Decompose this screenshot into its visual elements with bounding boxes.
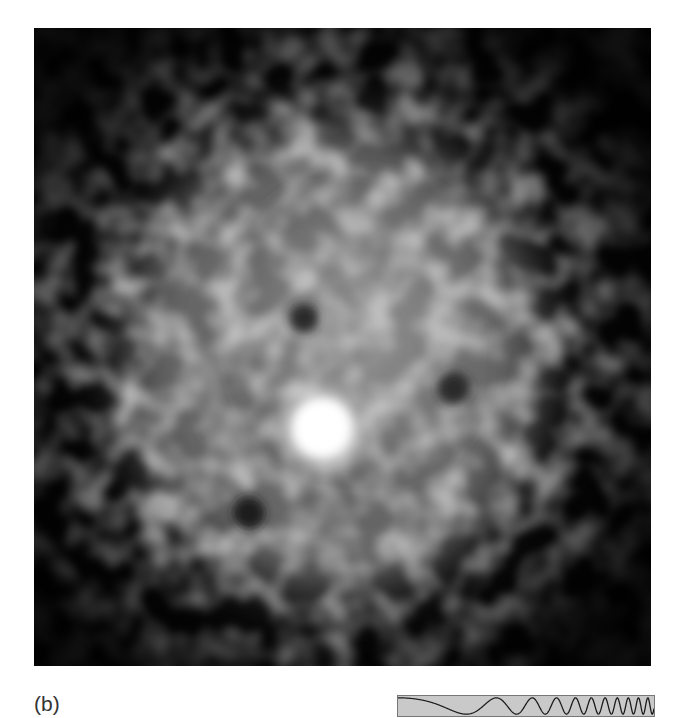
bright-spot	[293, 399, 351, 457]
speckle-image-graphic	[34, 28, 651, 666]
chirp-waveform-graphic	[398, 696, 654, 716]
panel-label: (b)	[34, 693, 60, 714]
chirp-waveform	[397, 695, 655, 717]
speckle-image	[34, 28, 651, 666]
